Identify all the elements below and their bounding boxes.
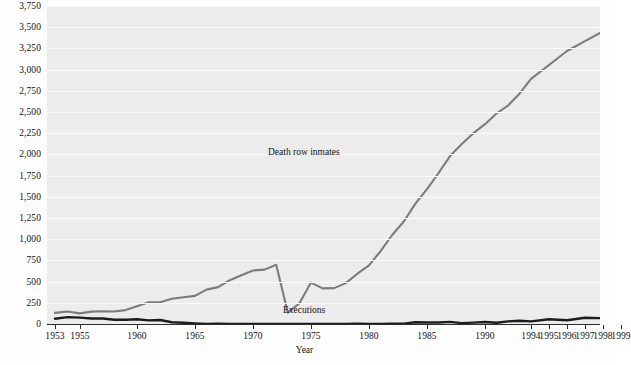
y-axis-tick-label: 3,750 [19,1,41,11]
gridline [47,303,600,304]
x-axis-tick-mark [80,325,81,329]
x-axis-tick-mark [603,325,604,329]
gridline [47,218,600,219]
x-axis-tick-label: 1985 [417,331,436,341]
gridline [47,260,600,261]
x-axis-tick-label: 1990 [475,331,494,341]
y-axis-tick-label: 500 [26,277,41,287]
gridline [47,176,600,177]
y-axis-tick-label: 3,250 [19,43,41,53]
gridline [47,27,600,28]
gridline [47,239,600,240]
x-axis-tick-mark [585,325,586,329]
y-axis-tick-label: 3,000 [19,65,41,75]
y-axis-tick-label: 2,000 [19,149,41,159]
y-axis-tick-label: 2,250 [19,128,41,138]
x-axis-tick-mark [567,325,568,329]
x-axis-tick-label: 1997 [575,331,594,341]
gridline [47,70,600,71]
line-death-row-inmates [55,25,600,314]
gridline [47,282,600,283]
x-axis-tick-mark [369,325,370,329]
x-axis-tick-mark [427,325,428,329]
y-axis-tick-label: 250 [26,298,41,308]
x-axis-tick-label: 1996 [557,331,576,341]
x-axis-tick-mark [531,325,532,329]
x-axis-tick-label: 1960 [127,331,146,341]
x-axis-tick-mark [137,325,138,329]
gridline [47,91,600,92]
y-axis-tick-label: 1,500 [19,192,41,202]
series-label-death-row-inmates: Death row inmates [268,147,340,157]
gridline [47,48,600,49]
y-axis: 02505007501,0001,2501,5001,7502,0002,250… [0,0,44,330]
x-axis-tick-mark [311,325,312,329]
x-axis-tick-label: 1994 [521,331,540,341]
series-label-executions: Executions [283,305,325,315]
x-axis-title: Year [0,345,609,355]
y-axis-tick-label: 750 [26,255,41,265]
x-axis-line [47,324,600,325]
y-axis-tick-label: 1,250 [19,213,41,223]
x-axis-tick-label: 1953 [45,331,64,341]
y-axis-tick-label: 2,750 [19,86,41,96]
line-executions [55,316,600,324]
x-axis-tick-label: 1998 [593,331,612,341]
gridline [47,133,600,134]
x-axis-tick-label: 1980 [359,331,378,341]
x-axis-tick-label: 1965 [185,331,204,341]
y-axis-tick-label: 3,500 [19,22,41,32]
x-axis-tick-label: 1975 [301,331,320,341]
x-axis-tick-mark [549,325,550,329]
x-axis-tick-mark [195,325,196,329]
y-axis-tick-label: 0 [36,319,41,329]
x-axis-tick-mark [485,325,486,329]
gridline [47,112,600,113]
x-axis-tick-mark [55,325,56,329]
x-axis-tick-label: 1955 [70,331,89,341]
y-axis-tick-label: 1,750 [19,171,41,181]
plot-area [47,6,600,324]
y-axis-tick-label: 1,000 [19,234,41,244]
x-axis-tick-label: 1970 [243,331,262,341]
gridline [47,6,600,7]
x-axis-tick-label: 1999 [611,331,630,341]
x-axis-tick-label: 1995 [539,331,558,341]
gridline [47,197,600,198]
series-lines [47,6,600,324]
y-axis-tick-label: 2,500 [19,107,41,117]
x-axis-tick-mark [253,325,254,329]
x-axis-tick-mark [621,325,622,329]
